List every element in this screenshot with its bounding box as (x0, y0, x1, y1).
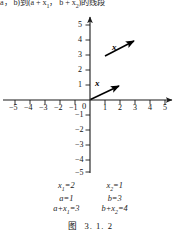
figure-caption: 图3. 1. 2 (0, 219, 181, 231)
y-tick-label-neg3: −3 (75, 141, 84, 149)
equation-block: x1=2 a=1 a+x1=3 x2=1 b=3 b+x2=4 (0, 181, 181, 217)
x-tick-label-4: 4 (148, 104, 152, 112)
equation-a-plus-x1: a+x1=3 (53, 204, 79, 217)
equation-b: b=3 (102, 194, 128, 204)
running-text-prefix: a， b)到(a + x (0, 0, 46, 7)
vector-lower-label: x (95, 79, 100, 88)
vector-lower (91, 86, 120, 100)
y-tick-label-5: 5 (78, 21, 82, 29)
y-tick-label-3: 3 (78, 51, 82, 59)
x-tick-label-neg5: −5 (9, 104, 18, 112)
running-text-middle: ， b + x (49, 0, 75, 7)
y-tick-label-1: 1 (78, 81, 82, 89)
y-tick-label-4: 4 (78, 36, 82, 44)
x-tick-label-1: 1 (103, 104, 107, 112)
vector-upper (105, 41, 134, 56)
caption-number: 3. 1. 2 (84, 221, 112, 231)
equation-b-plus-x2: b+x2=4 (102, 204, 128, 217)
equation-x1: x1=2 (53, 181, 79, 194)
x-tick-label-neg3: −3 (39, 104, 48, 112)
y-axis (86, 17, 91, 173)
y-tick-label-neg4: −4 (75, 156, 84, 164)
x-tick-label-5: 5 (163, 104, 167, 112)
x-tick-label-neg2: −2 (54, 104, 63, 112)
running-text-fragment: a， b)到(a + x1， b + x2)的线段 (0, 0, 181, 8)
vector-upper-label: x (112, 43, 117, 52)
running-text-suffix: )的线段 (79, 0, 105, 7)
y-tick-label-2: 2 (78, 66, 82, 74)
x-tick-label-2: 2 (118, 104, 122, 112)
coordinate-plane-figure: 5 4 3 2 1 −1 −2 −3 −4 −5 −5 −4 −3 −2 −1 … (0, 8, 181, 176)
axes-svg (0, 8, 181, 176)
origin-label: 0 (82, 102, 86, 110)
y-tick-label-neg1: −1 (75, 111, 84, 119)
y-tick-label-neg5: −5 (75, 169, 84, 177)
x-tick-label-neg1: −1 (69, 104, 78, 112)
equation-column-right: x2=1 b=3 b+x2=4 (102, 181, 128, 217)
x-tick-label-3: 3 (133, 104, 137, 112)
equation-x2: x2=1 (102, 181, 128, 194)
equation-column-left: x1=2 a=1 a+x1=3 (53, 181, 79, 217)
y-tick-label-neg2: −2 (75, 126, 84, 134)
x-tick-label-neg4: −4 (24, 104, 33, 112)
caption-prefix: 图 (68, 221, 77, 231)
equation-a: a=1 (53, 194, 79, 204)
